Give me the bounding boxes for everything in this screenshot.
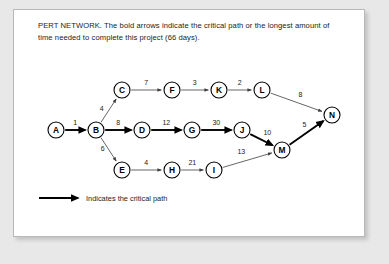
edge-weight-d-g: 12 (162, 119, 170, 126)
node-label-c: C (119, 85, 125, 95)
node-label-b: B (93, 125, 99, 135)
node-label-m: M (279, 145, 286, 155)
node-b[interactable]: B (88, 122, 104, 138)
node-label-g: G (189, 125, 196, 135)
node-k[interactable]: K (211, 82, 227, 98)
edge-weight-f-k: 3 (193, 79, 197, 86)
node-label-i: I (213, 165, 215, 175)
edge-weight-k-l: 2 (238, 79, 242, 86)
pert-network-diagram: 14867124330211310285 ABCDEFGHIJKLMN Indi… (14, 10, 366, 238)
node-h[interactable]: H (164, 162, 180, 178)
node-label-n: N (329, 110, 335, 120)
edge-i-m (223, 153, 272, 167)
node-l[interactable]: L (254, 82, 270, 98)
node-g[interactable]: G (184, 122, 200, 138)
node-j[interactable]: J (234, 122, 250, 138)
node-e[interactable]: E (114, 162, 130, 178)
edge-weight-c-f: 7 (144, 79, 148, 86)
edge-j-m (250, 134, 272, 145)
edge-weight-j-m: 10 (263, 129, 271, 136)
edge-weight-m-n: 5 (302, 121, 306, 128)
node-label-j: J (240, 125, 245, 135)
edge-weight-b-d: 8 (116, 119, 120, 126)
node-label-a: A (53, 125, 59, 135)
node-label-d: D (139, 125, 145, 135)
node-c[interactable]: C (114, 82, 130, 98)
edge-weight-a-b: 1 (73, 119, 77, 126)
edge-l-n (271, 93, 322, 111)
page-root: PERT NETWORK. The bold arrows indicate t… (0, 0, 389, 264)
edge-weight-l-n: 8 (298, 91, 302, 98)
node-label-e: E (119, 165, 125, 175)
edge-weight-h-i: 21 (188, 159, 196, 166)
node-label-l: L (259, 85, 264, 95)
node-d[interactable]: D (134, 122, 150, 138)
edge-weight-b-e: 6 (101, 145, 105, 152)
node-m[interactable]: M (274, 142, 290, 158)
edge-m-n (290, 121, 324, 145)
node-label-h: H (169, 165, 175, 175)
edge-weight-i-m: 13 (237, 148, 245, 155)
node-a[interactable]: A (48, 122, 64, 138)
node-label-k: K (216, 85, 222, 95)
node-f[interactable]: F (164, 82, 180, 98)
node-label-f: F (169, 85, 174, 95)
node-i[interactable]: I (206, 162, 222, 178)
edge-weight-g-j: 30 (212, 119, 220, 126)
legend: Indicates the critical path (39, 194, 167, 203)
edge-weight-b-c: 4 (100, 105, 104, 112)
legend-label: Indicates the critical path (86, 194, 167, 203)
edge-weight-e-h: 4 (144, 159, 148, 166)
node-n[interactable]: N (324, 107, 340, 123)
diagram-card: PERT NETWORK. The bold arrows indicate t… (13, 9, 365, 237)
